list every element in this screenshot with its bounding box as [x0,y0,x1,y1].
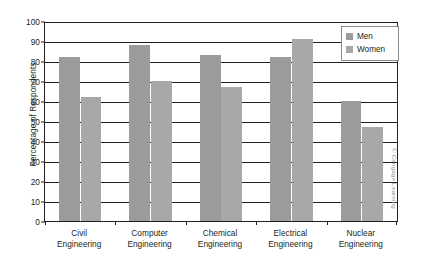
chart-legend: Men Women [341,26,399,61]
x-tick-mark-2 [186,221,187,225]
y-tick-mark-90 [41,42,45,43]
y-tick-label-70: 70 [31,77,40,87]
bar-women-nuclear-engineering [362,127,383,221]
x-tick-mark-3 [256,221,257,225]
x-axis-label-civil-engineering: CivilEngineering [44,228,114,249]
legend-label-men: Men [357,32,373,41]
y-tick-label-10: 10 [31,197,40,207]
x-tick-mark-4 [327,221,328,225]
legend-item-men: Men [346,30,394,43]
x-axis-label-nuclear-engineering: NuclearEngineering [326,228,396,249]
bar-women-computer-engineering [151,81,172,221]
y-tick-label-100: 100 [26,17,40,27]
y-tick-mark-100 [41,22,45,23]
y-tick-label-80: 80 [31,57,40,67]
gridline-70 [45,82,397,83]
gridline-100 [45,22,397,23]
y-tick-label-30: 30 [31,157,40,167]
x-axis-label-computer-engineering: ComputerEngineering [114,228,184,249]
legend-swatch-men-icon [346,33,353,40]
y-tick-label-0: 0 [35,217,40,227]
bar-women-civil-engineering [81,97,102,221]
gridline-80 [45,62,397,63]
x-axis-label-chemical-engineering: ChemicalEngineering [185,228,255,249]
bar-women-electrical-engineering [292,39,313,221]
bar-women-chemical-engineering [221,87,242,221]
y-tick-mark-60 [41,102,45,103]
y-tick-label-20: 20 [31,177,40,187]
x-tick-mark-5 [396,221,397,225]
y-tick-mark-80 [41,62,45,63]
y-tick-mark-50 [41,122,45,123]
y-tick-label-60: 60 [31,97,40,107]
copyright-credit: © Cengage Learning [391,148,398,209]
bar-men-chemical-engineering [200,55,221,221]
legend-swatch-women-icon [346,46,353,53]
legend-label-women: Women [357,45,385,54]
x-tick-mark-0 [45,221,46,225]
x-tick-mark-1 [115,221,116,225]
bar-men-nuclear-engineering [341,101,362,221]
y-tick-mark-10 [41,202,45,203]
legend-item-women: Women [346,43,394,56]
bar-men-electrical-engineering [270,57,291,221]
y-tick-mark-20 [41,182,45,183]
y-tick-label-40: 40 [31,137,40,147]
bar-men-civil-engineering [59,57,80,221]
bar-men-computer-engineering [129,45,150,221]
y-tick-label-90: 90 [31,37,40,47]
y-tick-mark-40 [41,142,45,143]
y-tick-label-50: 50 [31,117,40,127]
bar-chart: Percentage of Respondents 01020304050607… [0,0,430,275]
y-tick-mark-30 [41,162,45,163]
x-axis-label-electrical-engineering: ElectricalEngineering [255,228,325,249]
y-tick-mark-70 [41,82,45,83]
